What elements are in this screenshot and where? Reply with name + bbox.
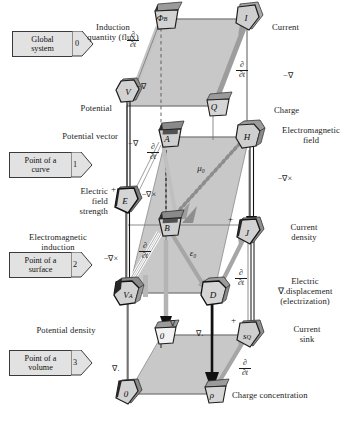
label-electric-field-strength: Electric field strength [46, 186, 108, 216]
tag-arrow-shape: 3 [71, 350, 93, 376]
node-electric-displacement[interactable]: D [199, 277, 231, 307]
tag-point-of-surface[interactable]: Point of a surface 2 [9, 252, 93, 278]
label-charge: Charge [274, 105, 334, 115]
node-current-density[interactable]: J [234, 216, 264, 246]
op-ddt-sq: ∂ ∂t [238, 359, 252, 377]
label-potential-vector: Potential vector [18, 131, 118, 141]
tag-line2: curve [31, 165, 49, 175]
op-minus-grad-charge: −∇ [277, 71, 299, 80]
tag-arrow-shape: 1 [71, 152, 93, 178]
label-electric-displacement: Electric ∇.displacement (electrization) [256, 276, 354, 306]
sign-plus-sq: + [231, 315, 236, 325]
op-ddt-b: ∂ ∂t [138, 242, 152, 260]
partial-symbol: ∂ [138, 242, 152, 251]
partial-t: ∂t [138, 252, 152, 261]
op-div-2: ∇. [192, 329, 208, 338]
node-charge-concentration[interactable]: ρ [197, 379, 227, 405]
op-epsilon-zero: ε₀ [182, 249, 204, 258]
partial-t: ∂t [126, 41, 140, 50]
op-minus-curl-a: −∇× [134, 190, 164, 199]
tag-number: 3 [73, 358, 77, 367]
label-charge-concentration: Charge concentration [232, 390, 354, 400]
diagram-canvas: Global system 0 Point of a curve 1 Point… [0, 0, 355, 426]
label-current-sink: Current sink [275, 324, 339, 344]
op-minus-curl-e: −∇× [96, 254, 126, 263]
node-charge[interactable]: Q [198, 92, 230, 118]
partial-t: ∂t [238, 369, 252, 378]
tag-line1: Point of a [25, 256, 57, 266]
partial-t: ∂t [234, 279, 248, 288]
tag-line2: volume [28, 363, 53, 373]
partial-symbol: ∂ [146, 143, 160, 152]
node-zero-bottom[interactable]: 0 [113, 378, 143, 406]
op-div-3: ∇. [108, 364, 124, 373]
node-current[interactable]: I [234, 2, 262, 32]
tag-line2: system [31, 44, 54, 54]
node-potential-density[interactable]: VA [113, 277, 145, 307]
tag-point-of-volume[interactable]: Point of a volume 3 [9, 350, 93, 376]
tag-number: 1 [73, 160, 77, 169]
tag-line1: Global [31, 35, 53, 45]
label-potential: Potential [46, 103, 112, 113]
label-electromagnetic-field: Electromagnetic field [268, 125, 354, 145]
partial-t: ∂t [235, 71, 249, 80]
tag-arrow-shape: 2 [71, 252, 93, 278]
op-minus-grad-potential: −∇ [130, 82, 152, 91]
op-ddt-current: ∂ ∂t [235, 61, 249, 79]
op-ddt-j: ∂ ∂t [234, 269, 248, 287]
sign-plus-e: + [111, 184, 116, 194]
op-minus-curl-h: −∇× [270, 174, 300, 183]
label-induction-quantity: Induction quantity (flux) [63, 22, 163, 42]
op-ddt-flux: ∂ ∂t [126, 31, 140, 49]
sign-plus-j: + [228, 214, 233, 224]
partial-symbol: ∂ [126, 31, 140, 40]
label-potential-density: Potential density [16, 325, 116, 335]
tag-number: 2 [73, 260, 77, 269]
tag-line1: Point of a [25, 156, 57, 166]
label-current: Current [272, 22, 342, 32]
partial-symbol: ∂ [238, 359, 252, 368]
tag-line2: surface [29, 265, 53, 275]
op-minus-grad-potential-vector: −∇ [122, 139, 144, 148]
label-electromagnetic-induction: Electromagnetic induction [8, 232, 108, 252]
partial-symbol: ∂ [235, 61, 249, 70]
partial-symbol: ∂ [234, 269, 248, 278]
partial-t: ∂t [146, 153, 160, 162]
tag-point-of-curve[interactable]: Point of a curve 1 [9, 152, 93, 178]
op-ddt-potential-vector: ∂ ∂t [146, 143, 160, 161]
op-div-1: ∇. [166, 319, 182, 328]
node-magnetic-induction[interactable]: B [151, 210, 183, 238]
node-electromagnetic-field[interactable]: H [234, 120, 264, 150]
node-current-sink[interactable]: sQ [234, 319, 264, 349]
tag-line1: Point of a [25, 354, 57, 364]
op-mu-zero: μ₀ [190, 164, 212, 173]
label-current-density: Current density [272, 222, 336, 242]
